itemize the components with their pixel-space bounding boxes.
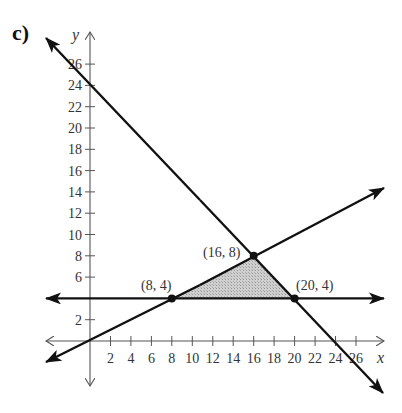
chart: 2 4 6 8 10 12 14 16 18 20 22 24 26 2 6 8…	[0, 0, 402, 413]
vertex-8-4	[168, 294, 176, 302]
label-16-8: (16, 8)	[203, 245, 241, 261]
x-tick-labels: 2 4 6 8 10 12 14 16 18 20 22 24 26	[107, 351, 363, 366]
svg-text:14: 14	[226, 351, 240, 366]
svg-text:16: 16	[68, 164, 82, 179]
vertex-20-4	[291, 294, 299, 302]
svg-text:14: 14	[68, 185, 82, 200]
svg-text:20: 20	[68, 121, 82, 136]
shaded-region	[172, 256, 295, 299]
svg-text:10: 10	[68, 228, 82, 243]
svg-text:12: 12	[68, 206, 82, 221]
y-axis-label: y	[70, 26, 80, 44]
y-tick-labels: 2 6 8 10 12 14 16 18 20 22 24 26	[68, 57, 82, 328]
vertex-16-8	[250, 252, 258, 260]
label-20-4: (20, 4)	[296, 278, 334, 294]
svg-text:18: 18	[68, 142, 82, 157]
svg-text:20: 20	[288, 351, 302, 366]
svg-text:8: 8	[168, 351, 175, 366]
svg-text:22: 22	[308, 351, 322, 366]
svg-text:22: 22	[68, 100, 82, 115]
svg-text:16: 16	[247, 351, 261, 366]
svg-text:10: 10	[185, 351, 199, 366]
svg-text:2: 2	[75, 313, 82, 328]
svg-text:24: 24	[329, 351, 343, 366]
svg-text:4: 4	[127, 351, 134, 366]
svg-text:6: 6	[148, 351, 155, 366]
svg-text:24: 24	[68, 78, 82, 93]
svg-text:6: 6	[75, 270, 82, 285]
svg-text:12: 12	[206, 351, 220, 366]
svg-text:2: 2	[107, 351, 114, 366]
label-8-4: (8, 4)	[141, 278, 172, 294]
svg-text:18: 18	[267, 351, 281, 366]
svg-text:8: 8	[75, 249, 82, 264]
x-axis-label: x	[376, 349, 384, 366]
